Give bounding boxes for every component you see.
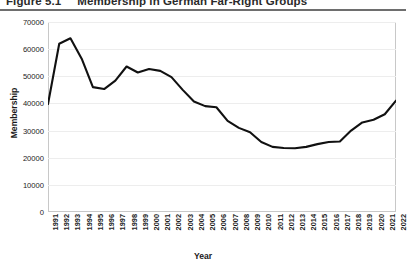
x-tick-label: 1998 bbox=[130, 214, 139, 230]
y-tick-label: 50000 bbox=[23, 72, 44, 81]
x-axis-title: Year bbox=[0, 251, 406, 261]
x-tick-label: 2022 bbox=[399, 214, 408, 230]
line-series bbox=[48, 22, 396, 212]
y-axis-title: Membership bbox=[9, 68, 19, 158]
x-tick-label: 2006 bbox=[219, 214, 228, 230]
x-tick-label: 2018 bbox=[354, 214, 363, 230]
x-axis-ticks: 1991199219931994199519961997199819992000… bbox=[48, 214, 396, 250]
x-tick-label: 2008 bbox=[242, 214, 251, 230]
y-tick-label: 60000 bbox=[23, 45, 44, 54]
x-tick-label: 2004 bbox=[197, 214, 206, 230]
x-tick-label: 2017 bbox=[343, 214, 352, 230]
y-tick-label: 0 bbox=[40, 208, 44, 217]
figure-title: Figure 5.1Membership in German Far-Right… bbox=[6, 0, 307, 7]
x-tick-label: 1994 bbox=[85, 214, 94, 230]
x-tick-label: 2013 bbox=[298, 214, 307, 230]
x-tick-label: 1999 bbox=[141, 214, 150, 230]
x-tick-label: 1997 bbox=[118, 214, 127, 230]
x-tick-label: 2001 bbox=[163, 214, 172, 230]
y-tick-label: 30000 bbox=[23, 126, 44, 135]
x-tick-label: 2016 bbox=[332, 214, 341, 230]
x-tick-label: 2021 bbox=[388, 214, 397, 230]
x-tick-label: 2015 bbox=[320, 214, 329, 230]
y-tick-label: 70000 bbox=[23, 18, 44, 27]
figure-title-bar: Figure 5.1Membership in German Far-Right… bbox=[0, 0, 406, 9]
x-tick-label: 2012 bbox=[287, 214, 296, 230]
plot-area: 010000200003000040000500006000070000 bbox=[48, 22, 396, 212]
y-tick-label: 40000 bbox=[23, 99, 44, 108]
y-tick-label: 10000 bbox=[23, 180, 44, 189]
y-tick-label: 20000 bbox=[23, 153, 44, 162]
x-tick-label: 2020 bbox=[377, 214, 386, 230]
figure-number: Figure 5.1 bbox=[6, 0, 61, 7]
x-tick-label: 2011 bbox=[276, 214, 285, 230]
figure-title-text: Membership in German Far-Right Groups bbox=[77, 0, 307, 7]
x-tick-label: 1992 bbox=[62, 214, 71, 230]
x-tick-label: 2009 bbox=[253, 214, 262, 230]
x-tick-label: 2005 bbox=[208, 214, 217, 230]
x-tick-label: 2002 bbox=[174, 214, 183, 230]
x-tick-label: 2010 bbox=[264, 214, 273, 230]
x-tick-label: 2019 bbox=[365, 214, 374, 230]
x-tick-label: 1993 bbox=[73, 214, 82, 230]
x-tick-label: 1995 bbox=[96, 214, 105, 230]
x-tick-label: 2014 bbox=[309, 214, 318, 230]
x-tick-label: 2007 bbox=[231, 214, 240, 230]
x-tick-label: 1996 bbox=[107, 214, 116, 230]
x-tick-label: 1991 bbox=[51, 214, 60, 230]
data-line bbox=[48, 38, 396, 148]
x-tick-label: 2000 bbox=[152, 214, 161, 230]
title-divider bbox=[0, 9, 406, 11]
x-tick-label: 2003 bbox=[186, 214, 195, 230]
